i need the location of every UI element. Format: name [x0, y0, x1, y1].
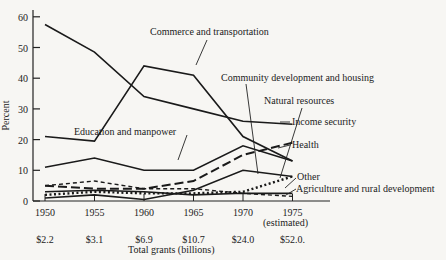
y-tick-label: 20 [18, 135, 28, 146]
y-tick-label: 10 [18, 165, 28, 176]
label-other: Other [297, 171, 320, 182]
y-tick-label: 60 [18, 12, 28, 23]
label-natural: Natural resources [264, 95, 334, 106]
x-tick-label: 1965 [184, 207, 204, 218]
annotation-arrow [196, 40, 207, 65]
label-health: Health [292, 139, 319, 150]
annotation-arrow [178, 135, 187, 160]
x-tick-label: 1955 [85, 207, 105, 218]
total-grants-label: $52.0. [280, 234, 305, 245]
label-education: Education and manpower [74, 126, 176, 137]
total-grants-label: $3.1 [86, 234, 104, 245]
label-community: Community development and housing [221, 72, 374, 83]
plot-area: 01020304050601950$2.21955$3.11960$6.9196… [0, 0, 446, 260]
y-tick-label: 50 [18, 43, 28, 54]
x-axis-title: Total grants (billions) [128, 244, 215, 255]
x-tick-label: 1960 [134, 207, 154, 218]
grants-line-chart: 01020304050601950$2.21955$3.11960$6.9196… [0, 0, 446, 260]
y-tick-label: 30 [18, 104, 28, 115]
y-axis-title: Percent [0, 101, 11, 131]
y-tick-label: 0 [23, 196, 28, 207]
y-tick-label: 40 [18, 73, 28, 84]
label-income: Income security [292, 116, 356, 127]
label-commerce: Commerce and transportation [150, 26, 269, 37]
x-tick-label: 1970 [233, 207, 253, 218]
x-tick-label: 1950 [35, 207, 55, 218]
label-agriculture: Agriculture and rural development [296, 183, 435, 194]
total-grants-label: $24.0 [232, 234, 255, 245]
series-education-and-manpower [45, 146, 293, 171]
label-estimated: (estimated) [263, 217, 308, 228]
annotation-arrow [246, 84, 258, 174]
total-grants-label: $2.2 [36, 234, 54, 245]
